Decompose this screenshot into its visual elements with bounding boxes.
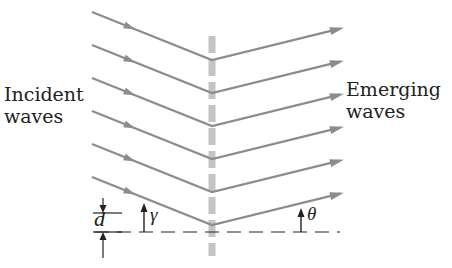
angle-gamma-label: γ <box>150 204 158 226</box>
emerging-arrowhead-icon <box>329 159 344 167</box>
d-arrow-up-icon <box>100 232 107 240</box>
spacing-d-label: d <box>94 206 105 232</box>
incident-arrowhead-icon <box>123 187 135 195</box>
emerging-waves-label: Emerging waves <box>346 78 441 122</box>
ray-5 <box>92 144 340 192</box>
emerging-arrowhead-icon <box>329 93 344 101</box>
ray-3 <box>92 78 340 126</box>
diagram-graphic <box>0 0 452 268</box>
theta-arrow-icon <box>298 208 305 217</box>
ray-2 <box>92 45 340 93</box>
ray-4 <box>92 111 340 159</box>
incident-arrowhead-icon <box>123 88 135 96</box>
emerging-arrowhead-icon <box>329 60 344 68</box>
emerging-label-line1: Emerging <box>346 78 441 100</box>
incident-arrowhead-icon <box>123 121 135 129</box>
emerging-arrowhead-icon <box>329 192 344 200</box>
incident-arrowhead-icon <box>123 55 135 63</box>
angle-theta-label: θ <box>307 203 316 225</box>
incident-waves-label: Incident waves <box>4 83 84 127</box>
emerging-label-line2: waves <box>346 100 441 122</box>
emerging-arrowhead-icon <box>329 126 344 134</box>
diffraction-grating-diagram: Incident waves Emerging waves d γ θ <box>0 0 452 268</box>
incident-label-line1: Incident <box>4 83 84 105</box>
emerging-arrowhead-icon <box>329 27 344 35</box>
incident-label-line2: waves <box>4 105 84 127</box>
gamma-arrow-icon <box>141 203 148 212</box>
ray-1 <box>92 12 340 60</box>
ray-6 <box>92 177 340 225</box>
incident-arrowhead-icon <box>123 154 135 162</box>
incident-arrowhead-icon <box>123 22 135 30</box>
